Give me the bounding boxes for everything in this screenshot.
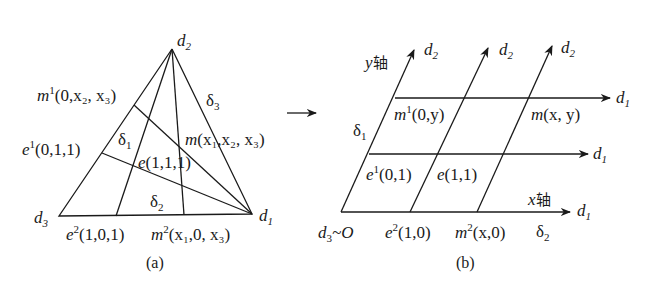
point-m1-label: m1(0,x₂, x₃) (37, 84, 116, 105)
vertex-d2-label: d2 (177, 31, 192, 52)
arrow-end-d1-2: d1 (593, 144, 607, 165)
arrow-end-d1-1: d1 (616, 88, 630, 109)
point-e-label-b: e(1,1) (437, 165, 477, 184)
line-m2-d2 (477, 46, 552, 212)
point-e-label: e(1,1,1) (138, 153, 191, 172)
point-m2-label-b: m2(x,0) (455, 221, 505, 242)
x-axis-label: x轴 (527, 190, 551, 209)
origin-label: d3~O (318, 223, 353, 244)
point-e1-label: e1(0,1,1) (22, 138, 80, 159)
diagram-canvas: d2 d3 d1 δ3 δ1 δ2 m1(0,x₂, x₃) e1(0,1,1)… (0, 0, 652, 287)
point-e2-label: e2(1,0,1) (66, 223, 124, 244)
arrow-end-d2-3: d2 (561, 38, 576, 59)
point-m1-label-b: m1(0,y) (394, 103, 444, 124)
point-m-label-b: m(x, y) (531, 105, 580, 124)
delta2-label: δ2 (150, 192, 164, 213)
line-d2-m2 (172, 49, 184, 215)
arrow-end-d1-3: d1 (577, 201, 591, 222)
delta1-label-b: δ1 (353, 121, 367, 142)
figure-b: y轴 x轴 d2 d2 d2 d1 d1 d1 δ1 δ2 d3~O m1(0,… (318, 38, 630, 272)
arrow-end-d2-2: d2 (499, 40, 514, 61)
delta1-label: δ1 (118, 130, 132, 151)
caption-a: (a) (146, 254, 164, 272)
point-m2-label: m2(x₁,0, x₃) (151, 223, 230, 244)
y-axis (341, 50, 414, 212)
delta3-label: δ3 (206, 91, 220, 112)
y-axis-label: y轴 (363, 53, 388, 72)
line-e2-d2 (410, 48, 488, 212)
vertex-d3-label: d3 (34, 208, 49, 229)
point-e2-label-b: e2(1,0) (385, 221, 431, 242)
figure-a: d2 d3 d1 δ3 δ1 δ2 m1(0,x₂, x₃) e1(0,1,1)… (22, 31, 273, 272)
caption-b: (b) (456, 254, 475, 272)
point-m-label: m(x₁,x₂, x₃) (185, 130, 265, 149)
vertex-d1-label: d1 (259, 206, 273, 227)
delta2-label-b: δ2 (536, 222, 550, 243)
arrow-end-d2-1: d2 (424, 40, 439, 61)
point-e1-label-b: e1(0,1) (366, 163, 412, 184)
